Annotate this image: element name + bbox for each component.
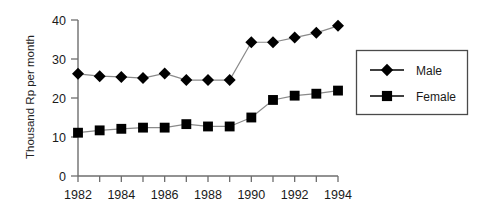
y-tick-label: 30 [52, 53, 66, 67]
data-point-female-1994 [333, 86, 343, 96]
x-tick-label: 1992 [281, 188, 309, 202]
legend-box [357, 51, 468, 115]
data-point-female-1985 [138, 123, 148, 133]
legend: MaleFemale [357, 51, 468, 115]
x-tick-label: 1988 [194, 188, 222, 202]
data-point-female-1988 [203, 122, 213, 132]
data-point-female-1986 [160, 123, 170, 133]
data-point-female-1987 [181, 119, 191, 129]
y-axis-title-text: Thousand Rp per month [24, 35, 36, 159]
data-point-female-1990 [246, 113, 256, 123]
y-tick-label: 40 [52, 14, 66, 28]
x-tick-label: 1986 [151, 188, 179, 202]
x-tick-label: 1982 [64, 188, 92, 202]
x-tick-label: 1984 [107, 188, 135, 202]
legend-marker-female [382, 91, 392, 101]
y-tick-label: 10 [52, 131, 66, 145]
x-tick-label: 1990 [237, 188, 265, 202]
chart-container: Thousand Rp per month 010203040 19821984… [0, 0, 477, 215]
data-point-female-1993 [311, 89, 321, 99]
data-point-female-1992 [290, 91, 300, 101]
data-point-female-1982 [73, 128, 83, 138]
y-axis-title: Thousand Rp per month [24, 35, 36, 159]
data-point-female-1984 [116, 124, 126, 134]
y-tick-label: 20 [52, 92, 66, 106]
legend-label-male: Male [416, 64, 442, 78]
line-chart: Thousand Rp per month 010203040 19821984… [0, 0, 477, 215]
data-point-female-1983 [95, 125, 105, 135]
data-point-female-1991 [268, 95, 278, 105]
data-point-female-1989 [225, 122, 235, 132]
y-tick-label: 0 [59, 170, 66, 184]
x-tick-label: 1994 [324, 188, 352, 202]
legend-label-female: Female [416, 90, 456, 104]
